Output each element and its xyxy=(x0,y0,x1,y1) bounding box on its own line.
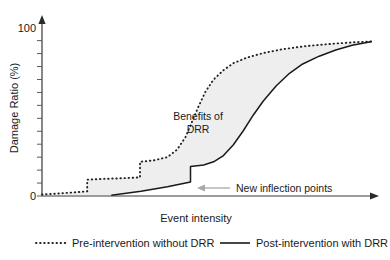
legend: Pre-intervention without DRR Post-interv… xyxy=(36,237,388,249)
y-axis-title: Damage Ratio (%) xyxy=(8,63,20,153)
y-tick-label-100: 100 xyxy=(18,22,36,34)
inflection-arrow-icon xyxy=(197,185,205,192)
x-axis-arrow-icon xyxy=(370,193,379,200)
y-tick-label-0: 0 xyxy=(30,190,36,202)
x-axis-title: Event intensity xyxy=(160,212,232,224)
legend-label-pre-intervention: Pre-intervention without DRR xyxy=(72,237,215,249)
legend-label-post-intervention: Post-intervention with DRR xyxy=(256,237,388,249)
inflection-annotation-label: New inflection points xyxy=(236,182,332,194)
benefits-annotation-line1: Benefits of xyxy=(173,110,223,122)
benefits-annotation-line2: DRR xyxy=(187,123,210,135)
y-axis-ticks xyxy=(37,41,42,196)
y-axis-arrow-icon xyxy=(38,15,45,24)
damage-ratio-chart: 100 0 Damage Ratio (%) Event intensity B… xyxy=(0,0,390,260)
